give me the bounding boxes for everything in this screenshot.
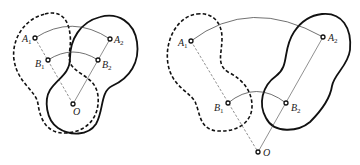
right-point-A1 xyxy=(189,39,193,43)
left-arc-B xyxy=(48,52,98,60)
right-arc-B xyxy=(228,92,286,104)
right-label-A2: A2 xyxy=(327,32,338,45)
right-label-A1: A1 xyxy=(177,37,188,50)
right-ray-O-A1 xyxy=(191,41,258,152)
left-original-body-dashed xyxy=(14,13,99,133)
right-point-A2 xyxy=(321,35,325,39)
left-arc-A xyxy=(35,26,110,39)
left-point-B1 xyxy=(46,58,50,62)
right-ray-O-A2 xyxy=(258,37,323,152)
left-label-B1: B1 xyxy=(35,58,45,71)
left-rotated-body-solid xyxy=(47,16,138,134)
right-label-O: O xyxy=(263,147,270,158)
right-rotated-body-solid xyxy=(262,14,350,130)
left-point-A2 xyxy=(108,37,112,41)
left-point-A1 xyxy=(33,36,37,40)
right-point-B1 xyxy=(226,101,230,105)
left-label-A1: A1 xyxy=(21,33,32,46)
right-label-B2: B2 xyxy=(291,102,301,115)
left-point-B2 xyxy=(96,58,100,62)
diagram-canvas: A1 B1 A2 B2 O A1 B1 A2 B2 O xyxy=(0,0,360,165)
right-label-B1: B1 xyxy=(214,102,224,115)
right-figure: A1 B1 A2 B2 O xyxy=(167,14,350,158)
left-label-A2: A2 xyxy=(113,34,124,47)
left-label-O: O xyxy=(73,106,80,117)
right-point-B2 xyxy=(284,101,288,105)
left-figure: A1 B1 A2 B2 O xyxy=(14,13,138,134)
left-label-B2: B2 xyxy=(102,59,112,72)
right-point-O xyxy=(256,150,260,154)
